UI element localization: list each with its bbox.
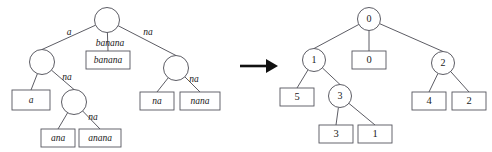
tree-edge [322, 68, 340, 85]
tree-leaf: banana [86, 51, 130, 69]
suffix-tree-transformation-figure: abananaanaananananana abanananananana 01… [0, 0, 492, 152]
tree-node-label: 0 [367, 13, 372, 24]
tree-node: 1 [303, 49, 326, 72]
tree-edge [314, 24, 359, 48]
transformation-arrow [240, 59, 278, 73]
tree-leaf-label: 4 [426, 95, 432, 106]
tree-leaf-label: ana [51, 133, 66, 143]
tree-node-label: 2 [441, 57, 446, 68]
tree-leaf-label: nana [191, 96, 210, 106]
tree-leaf-label: 2 [466, 95, 471, 106]
tree-leaf: na [140, 92, 174, 110]
tree-leaf: 4 [412, 92, 446, 110]
tree-edge [349, 103, 375, 125]
tree-node [62, 90, 87, 115]
tree-edge [429, 73, 438, 92]
tree-edge [157, 78, 168, 92]
edge-label: na [189, 74, 199, 84]
tree-node: 3 [329, 85, 352, 108]
tree-edge [297, 70, 308, 88]
edge-label: a [67, 27, 72, 37]
tree-leaf-label: a [29, 95, 34, 105]
tree-leaf-label: 5 [294, 91, 299, 102]
tree-leaf: 1 [358, 125, 392, 143]
tree-edge [380, 24, 443, 52]
tree-node: 0 [358, 8, 381, 31]
tree-leaf: 5 [280, 88, 314, 106]
tree-node [30, 50, 55, 75]
tree-node [164, 56, 189, 81]
edge-label: na [143, 27, 153, 37]
arrow-head-icon [266, 59, 278, 73]
tree-leaf-label: anana [88, 133, 112, 143]
tree-node-label: 1 [312, 54, 317, 65]
tree-node [95, 8, 120, 33]
edge-label: banana [96, 38, 125, 48]
tree-edge [31, 74, 37, 90]
tree-leaf: nana [180, 92, 220, 110]
tree-edge [58, 113, 68, 129]
tree-edge [451, 72, 469, 92]
tree-leaf: ana [41, 129, 75, 147]
tree-edge [336, 107, 338, 125]
tree-leaf-label: banana [94, 55, 123, 65]
tree-leaf: a [12, 90, 50, 110]
tree-leaf-label: na [152, 96, 162, 106]
tree-node-label: 3 [338, 90, 343, 101]
tree-leaf: 2 [452, 92, 486, 110]
tree-leaf-label: 0 [366, 54, 371, 65]
edge-label: na [88, 112, 98, 122]
tree-leaf-label: 3 [333, 128, 338, 139]
tree-leaf: 0 [352, 51, 386, 69]
tree-leaf: 3 [319, 125, 353, 143]
tree-leaf: anana [79, 129, 121, 147]
tree-leaf-label: 1 [372, 128, 377, 139]
tree-node: 2 [432, 52, 455, 75]
edge-label: na [62, 72, 72, 82]
